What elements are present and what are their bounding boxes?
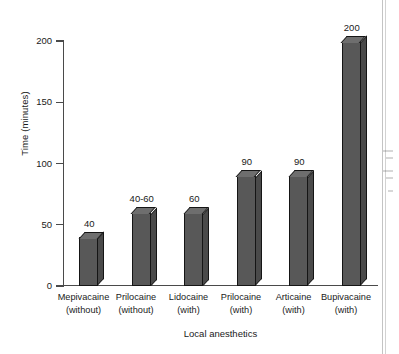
x-label-line2: (with) — [314, 304, 378, 317]
bar — [237, 176, 256, 286]
bar — [132, 213, 151, 287]
y-tick-label: 50 — [6, 220, 52, 230]
bar — [79, 237, 98, 286]
scan-marks-artifact — [379, 148, 393, 194]
x-axis-labels: Mepivacaine(without)Prilocaine(without)L… — [63, 291, 378, 331]
bar — [289, 176, 308, 286]
bar-value-label: 40 — [63, 219, 116, 229]
bar-value-label: 90 — [273, 157, 326, 167]
x-label-line1: Articaine — [276, 292, 312, 302]
x-label-line1: Lidocaine — [169, 292, 208, 302]
bar-value-label: 40-60 — [116, 194, 169, 204]
x-label-line1: Prilocaine — [116, 292, 156, 302]
y-tick-label: 150 — [6, 97, 52, 107]
x-axis-title: Local anesthetics — [63, 328, 378, 339]
x-label-line1: Prilocaine — [221, 292, 261, 302]
x-label-line1: Bupivacaine — [321, 292, 371, 302]
bar-chart: Time (minutes) 050100150200 4040-6060909… — [0, 0, 399, 354]
y-tick-label: 200 — [6, 36, 52, 46]
plot-area: 4040-60609090200 — [63, 41, 378, 286]
y-tick-label: 0 — [6, 281, 52, 291]
bar-value-label: 90 — [221, 157, 274, 167]
bar — [184, 213, 203, 287]
x-label-line1: Mepivacaine — [58, 292, 110, 302]
y-tick-label: 100 — [6, 159, 52, 169]
bar — [342, 41, 361, 286]
bar-value-label: 60 — [168, 194, 221, 204]
bar-value-label: 200 — [326, 23, 379, 33]
x-axis-category-label: Bupivacaine(with) — [314, 291, 378, 316]
y-axis-title: Time (minutes) — [19, 54, 30, 194]
